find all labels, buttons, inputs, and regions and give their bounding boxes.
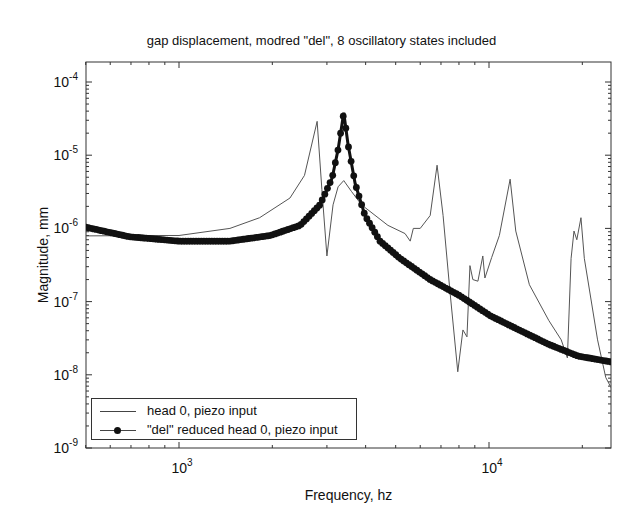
legend-item-head0: head 0, piezo input (92, 401, 356, 420)
svg-text:10-6: 10-6 (54, 217, 79, 236)
svg-text:10-4: 10-4 (54, 71, 79, 90)
svg-text:10-7: 10-7 (54, 291, 79, 310)
axis-ticks (86, 62, 611, 448)
thin-line-swatch-icon (98, 405, 138, 417)
legend-label: head 0, piezo input (147, 403, 257, 418)
svg-text:10-9: 10-9 (54, 437, 79, 456)
plot-frame (86, 62, 611, 448)
dot-line-swatch-icon (98, 424, 138, 436)
svg-text:10-5: 10-5 (54, 144, 79, 163)
svg-text:10-8: 10-8 (54, 364, 79, 383)
legend: head 0, piezo input "del" reduced head 0… (91, 398, 357, 440)
chart-plot-area: 10-410-510-610-710-810-9103104 (0, 0, 643, 523)
svg-text:103: 103 (171, 457, 193, 476)
legend-label: "del" reduced head 0, piezo input (147, 422, 338, 437)
data-series (82, 113, 614, 388)
svg-text:104: 104 (481, 457, 503, 476)
legend-item-del-reduced: "del" reduced head 0, piezo input (92, 420, 356, 439)
